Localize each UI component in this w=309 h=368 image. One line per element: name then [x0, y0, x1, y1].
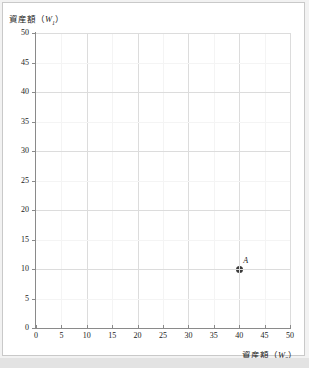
x-axis-tick-label: 40 — [230, 331, 248, 340]
y-axis-tick-label: 30 — [11, 146, 29, 155]
figure-container: 資産額（W1） 資産額（W0） A 0510152025303540455005… — [0, 0, 309, 368]
gridline-horizontal — [36, 299, 290, 300]
x-axis-tick — [265, 325, 266, 329]
y-axis-tick-label: 40 — [11, 87, 29, 96]
gridline-horizontal — [36, 269, 290, 270]
y-axis-title: 資産額（W1） — [9, 12, 64, 26]
chart-plate: 資産額（W1） 資産額（W0） A 0510152025303540455005… — [2, 2, 305, 356]
y-axis-tick — [32, 122, 36, 123]
y-axis-tick — [32, 210, 36, 211]
y-axis-tick — [32, 33, 36, 34]
x-axis-tick-label: 25 — [154, 331, 172, 340]
x-axis-tick-label: 5 — [52, 331, 70, 340]
gridline-horizontal — [36, 92, 290, 93]
gridline-horizontal — [36, 33, 290, 34]
y-axis-tick-label: 50 — [11, 28, 29, 37]
y-axis-title-close: ） — [55, 14, 64, 24]
x-axis-tick-label: 0 — [27, 331, 45, 340]
gridline-horizontal — [36, 151, 290, 152]
y-axis-title-text: 資産額（ — [9, 14, 45, 24]
caption-band — [0, 358, 309, 368]
x-axis-tick — [214, 325, 215, 329]
y-axis-tick-label: 10 — [11, 264, 29, 273]
x-axis-tick-label: 30 — [179, 331, 197, 340]
x-axis-tick-label: 35 — [205, 331, 223, 340]
gridline-horizontal — [36, 63, 290, 64]
y-axis-tick-label: 25 — [11, 176, 29, 185]
gridline-horizontal — [36, 240, 290, 241]
y-axis-tick — [32, 269, 36, 270]
x-axis-tick — [138, 325, 139, 329]
y-axis-tick-label: 15 — [11, 235, 29, 244]
y-axis-tick — [32, 151, 36, 152]
x-axis-tick-label: 50 — [281, 331, 299, 340]
x-axis-tick-label: 15 — [103, 331, 121, 340]
gridline-horizontal — [36, 181, 290, 182]
x-axis-tick-label: 20 — [129, 331, 147, 340]
x-axis-tick-label: 45 — [256, 331, 274, 340]
x-axis-tick — [239, 325, 240, 329]
x-axis-tick — [36, 325, 37, 329]
gridline-vertical — [290, 33, 291, 328]
x-axis-tick-label: 10 — [78, 331, 96, 340]
y-axis-tick-label: 5 — [11, 294, 29, 303]
y-axis-tick — [32, 92, 36, 93]
plot-area: A — [36, 33, 290, 328]
x-axis-tick — [290, 325, 291, 329]
y-axis-tick — [32, 240, 36, 241]
y-axis-tick — [32, 181, 36, 182]
x-axis-tick — [61, 325, 62, 329]
x-axis-tick — [188, 325, 189, 329]
x-axis-tick — [87, 325, 88, 329]
x-axis-tick — [163, 325, 164, 329]
y-axis-tick-label: 20 — [11, 205, 29, 214]
data-point-a-label: A — [243, 256, 248, 265]
y-axis-tick-label: 35 — [11, 117, 29, 126]
x-axis-tick — [112, 325, 113, 329]
gridline-horizontal — [36, 122, 290, 123]
gridline-horizontal — [36, 210, 290, 211]
y-axis-tick-label: 45 — [11, 58, 29, 67]
y-axis-tick — [32, 63, 36, 64]
y-axis-tick — [32, 299, 36, 300]
